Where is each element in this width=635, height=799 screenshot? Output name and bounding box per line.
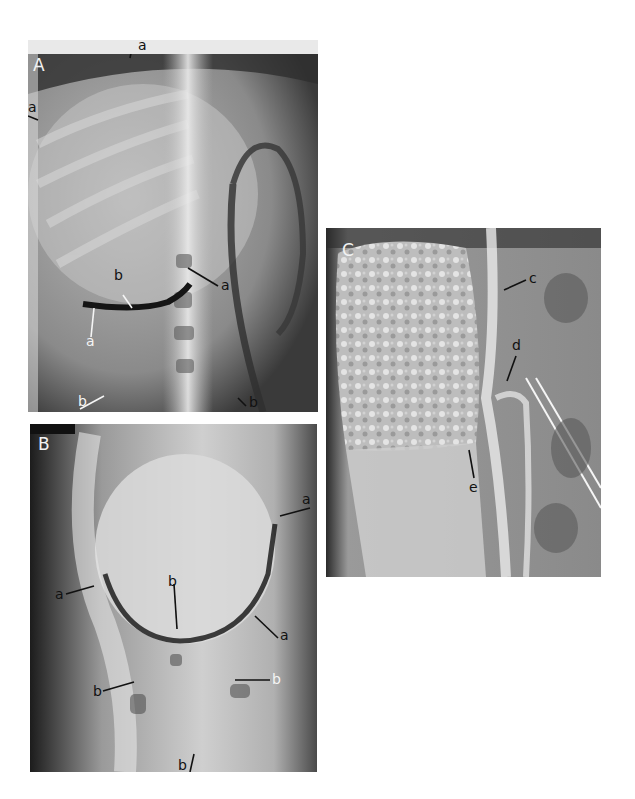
- annotation-b-lower-right: b: [272, 672, 281, 686]
- annotation-b-center: b: [168, 574, 177, 588]
- annotation-b-center-left: b: [114, 268, 123, 282]
- panel-label-a: A: [33, 57, 45, 74]
- annotation-a-upper-right: a: [302, 492, 311, 506]
- panel-label-b: B: [38, 436, 50, 453]
- panel-a-top-margin: [28, 40, 318, 54]
- annotation-c: c: [529, 271, 537, 285]
- xray-panel-c: C c d e: [326, 228, 601, 577]
- xray-panel-a: A a a b a b b: [28, 54, 318, 412]
- xray-image-a: [28, 54, 318, 412]
- annotation-d: d: [512, 338, 521, 352]
- annotation-a-center-right: a: [221, 278, 230, 292]
- annotation-b-bottom: b: [178, 758, 187, 772]
- annotation-a-top: a: [138, 38, 147, 52]
- annotation-b-bottom-right: b: [249, 395, 258, 409]
- annotation-a-left: a: [28, 100, 37, 114]
- xray-panel-b: B a a b a b b b: [30, 424, 317, 772]
- xray-image-c: [326, 228, 601, 577]
- panel-label-c: C: [342, 242, 354, 259]
- annotation-e: e: [469, 480, 478, 494]
- annotation-a-left: a: [55, 587, 64, 601]
- annotation-b-bottom-left: b: [78, 394, 87, 408]
- annotation-a-lower-left: a: [86, 334, 95, 348]
- annotation-b-lower-left: b: [93, 684, 102, 698]
- annotation-a-right: a: [280, 628, 289, 642]
- xray-image-b: [30, 424, 317, 772]
